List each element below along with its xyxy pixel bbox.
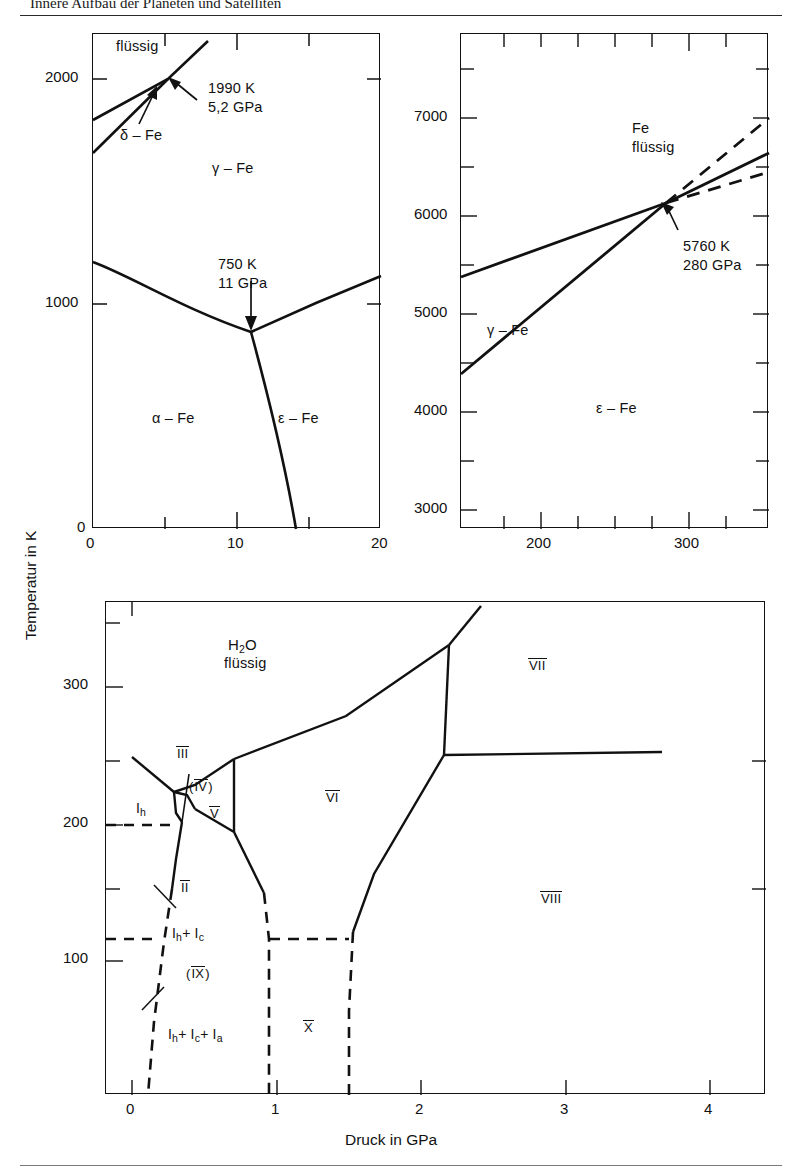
chart3-curves [106,602,766,1095]
label-h2o-h: H [228,636,239,653]
x-axis-title: Druck in GPa [345,1131,437,1149]
paren-close-iv: ) [208,779,213,794]
label-ice-IX-text: IX [191,966,206,981]
label-ice-V-text: V [209,806,220,821]
label-gamma-fe-2: γ – Fe [487,322,529,338]
label-ice-X-text: X [303,1020,314,1035]
label-ice-VII-text: VII [528,658,547,673]
leader-IhIcIa [142,987,164,1010]
label-fluessig-3: flüssig [224,655,267,671]
chart3-xlabel-3: 3 [560,1100,568,1117]
chart-water-phase-diagram [105,601,765,1094]
label-ice-Ih: Ih [136,800,146,818]
boundary-gamma-liquid [461,203,666,277]
arrow-1990k-head [168,77,181,90]
footer-rule [20,1165,782,1166]
boundary-Ih-II-left [172,822,182,889]
label-ice-V: V [209,806,220,821]
chart3-ylabel-200: 200 [63,813,88,830]
chart2-ylabel-5000: 5000 [414,303,447,320]
label-750k: 750 K [218,256,257,272]
boundary-VI-VIII [353,755,444,932]
label-ice-Ih-h: h [140,806,146,818]
boundary-VI-VIII-dashed [349,932,353,1095]
chart2-ylabel-4000: 4000 [414,401,447,418]
chart2-xlabel-200: 200 [526,534,551,551]
arrow-5760k-line [668,209,678,230]
label-5760k: 5760 K [683,238,730,254]
chart3-xlabel-2: 2 [415,1100,423,1117]
chart3-ylabel-100: 100 [63,949,88,966]
label-52gpa: 5,2 GPa [208,99,263,115]
label-fluessig-2: flüssig [632,139,675,155]
chart1-ylabel-2000: 2000 [45,68,78,85]
header-rule [20,15,782,16]
label-ice-III: III [176,746,189,761]
label-ice-IV-text: IV [194,779,209,794]
label-ice-III-text: III [176,746,189,761]
label-epsilon-fe-1: ε – Fe [278,410,319,426]
boundary-alpha-gamma [93,262,251,332]
paren-close-ix: ) [205,966,210,981]
label-ice-II-text: II [180,880,190,895]
chart3-ylabel-300: 300 [63,675,88,692]
chart3-xlabel-0: 0 [126,1100,134,1117]
mix2-plus-I1: + I [178,1026,195,1042]
label-alpha-fe: α – Fe [152,410,195,426]
label-fluessig-1: flüssig [116,38,159,54]
chart1-xlabel-0: 0 [86,534,94,551]
mix2-plus-I2: + I [200,1026,217,1042]
chart1-ylabel-0: 0 [77,518,85,535]
label-mix-ih-ic: Ih+ Ic [172,925,204,943]
boundary-gamma-epsilon [251,276,381,332]
chart3-xlabel-4: 4 [704,1100,712,1117]
boundary-gamma-epsilon-hp [461,203,666,374]
chart-iron-high-pressure [460,33,768,528]
chart2-xlabel-300: 300 [674,534,699,551]
label-ice-IX: (IX) [186,966,210,981]
running-head: Innere Aufbau der Planeten und Satellite… [30,0,770,13]
label-ice-VI: VI [325,790,340,805]
chart3-xlabel-1: 1 [271,1100,279,1117]
label-h2o-o: O [245,636,257,653]
label-delta-fe: δ – Fe [120,127,162,143]
chart1-xlabel-20: 20 [371,534,388,551]
mix2-a: a [217,1032,223,1044]
boundary-VII-VIII [444,752,662,755]
label-ice-VIII: VIII [540,891,562,906]
chart2-curves [461,34,769,529]
label-1990k: 1990 K [208,80,255,96]
label-ice-IV: (IV) [189,779,213,794]
label-ice-VI-text: VI [325,790,340,805]
label-11gpa: 11 GPa [218,275,267,291]
mix1-c: c [199,931,204,943]
chart2-ylabel-6000: 6000 [414,205,447,222]
chart2-ylabel-7000: 7000 [414,107,447,124]
y-axis-title: Temperatur in K [22,531,40,640]
chart1-xlabel-10: 10 [227,534,244,551]
label-h2o: H2O [228,636,257,655]
label-fe: Fe [632,120,649,136]
label-ice-VIII-text: VIII [540,891,562,906]
boundary-VI-VII [444,645,449,755]
chart1-ylabel-1000: 1000 [45,293,78,310]
chart2-ylabel-3000: 3000 [414,499,447,516]
boundary-Ih-III [174,792,182,822]
mix1-plus-I: + I [182,925,199,941]
label-mix-ih-ic-ia: Ih+ Ic+ Ia [168,1026,223,1044]
arrow-delta-line [139,93,154,124]
boundary-II-VI-dashed [264,893,269,1095]
label-epsilon-fe-2: ε – Fe [596,400,637,416]
label-280gpa: 280 GPa [683,257,742,273]
label-ice-X: X [303,1020,314,1035]
boundary-melt-VII [449,606,481,645]
label-gamma-fe-1: γ – Fe [212,160,254,176]
boundary-melt-Ih [132,757,174,792]
label-ice-II: II [180,880,190,895]
label-ice-VII: VII [528,658,547,673]
boundary-alpha-epsilon [251,332,296,529]
boundary-II-VI [234,832,264,893]
